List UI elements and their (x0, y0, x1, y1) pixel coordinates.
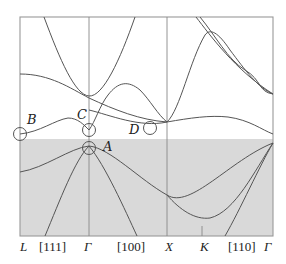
conduction-band-upper-2 (200, 17, 273, 94)
x-label-K: K (199, 239, 210, 254)
label-B: B (26, 112, 37, 127)
x-label-gamma-1: Γ (83, 239, 92, 254)
x-label-X: X (164, 239, 174, 254)
valence-band-region (20, 139, 273, 236)
x-label-100: [100] (117, 239, 145, 254)
x-label-111: [111] (39, 239, 66, 254)
label-D: D (128, 122, 140, 137)
x-label-110: [110] (228, 239, 256, 254)
x-label-gamma-2: Γ (263, 239, 272, 254)
label-A: A (102, 139, 112, 154)
conduction-band-D-curve (89, 110, 167, 124)
band-structure-diagram: B C A D L [111] Γ [100] X K [110] Γ (0, 0, 286, 264)
conduction-band-X-rise (167, 32, 273, 122)
x-label-L: L (19, 239, 27, 254)
label-C: C (77, 107, 87, 122)
conduction-band-B-curve (20, 84, 167, 134)
conduction-band-X-to-gamma-low (167, 116, 273, 134)
conduction-band-L-to-X (20, 74, 167, 122)
